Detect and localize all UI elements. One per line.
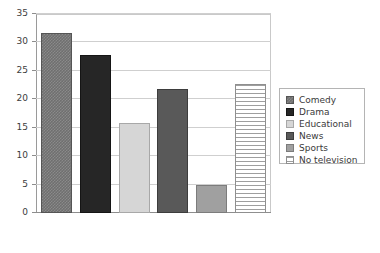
bar-drama bbox=[80, 55, 111, 213]
y-tick-label: 25 bbox=[2, 66, 28, 75]
legend-item-label: Educational bbox=[299, 119, 352, 129]
bar-no-television bbox=[235, 84, 266, 213]
y-tick-label: 20 bbox=[2, 94, 28, 103]
legend-item: News bbox=[286, 130, 364, 141]
legend-item: Educational bbox=[286, 118, 364, 129]
legend-item-label: Drama bbox=[299, 107, 329, 117]
bar-news bbox=[157, 89, 188, 213]
bar-chart: 05101520253035 ComedyDramaEducationalNew… bbox=[0, 0, 380, 253]
legend-item-label: No television bbox=[299, 155, 357, 165]
legend-swatch-icon bbox=[286, 144, 294, 152]
y-tick-mark bbox=[32, 70, 36, 71]
legend-swatch-icon bbox=[286, 132, 294, 140]
legend-item-label: News bbox=[299, 131, 323, 141]
bar-sports bbox=[196, 185, 227, 213]
legend-swatch-icon bbox=[286, 108, 294, 116]
y-tick-mark bbox=[32, 127, 36, 128]
legend-item: No television bbox=[286, 154, 364, 165]
legend-item: Drama bbox=[286, 106, 364, 117]
legend-item: Comedy bbox=[286, 94, 364, 105]
y-tick-label: 35 bbox=[2, 9, 28, 18]
y-tick-mark bbox=[32, 98, 36, 99]
y-tick-mark bbox=[32, 13, 36, 14]
bar-educational bbox=[119, 123, 150, 213]
legend-swatch-icon bbox=[286, 96, 294, 104]
y-tick-label: 30 bbox=[2, 37, 28, 46]
y-tick-label: 10 bbox=[2, 151, 28, 160]
y-tick-mark bbox=[32, 41, 36, 42]
y-tick-mark bbox=[32, 184, 36, 185]
y-tick-label: 0 bbox=[2, 208, 28, 217]
y-tick-mark bbox=[32, 155, 36, 156]
legend-swatch-icon bbox=[286, 120, 294, 128]
gridline bbox=[36, 13, 271, 14]
y-tick-mark bbox=[32, 212, 36, 213]
y-tick-label: 15 bbox=[2, 123, 28, 132]
legend-item-label: Sports bbox=[299, 143, 328, 153]
bar-comedy bbox=[41, 33, 72, 213]
legend-item: Sports bbox=[286, 142, 364, 153]
bars-group bbox=[37, 15, 271, 213]
y-tick-label: 5 bbox=[2, 180, 28, 189]
chart-legend: ComedyDramaEducationalNewsSportsNo telev… bbox=[279, 88, 365, 164]
legend-item-label: Comedy bbox=[299, 95, 336, 105]
legend-swatch-icon bbox=[286, 156, 294, 164]
